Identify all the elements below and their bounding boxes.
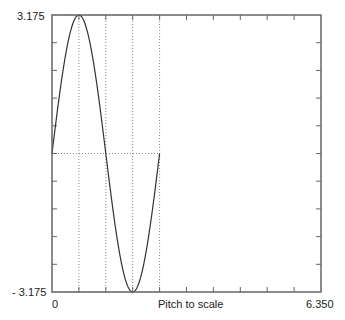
- x-min-label: 0: [52, 298, 58, 310]
- sine-curve: [52, 15, 160, 292]
- x-max-label: 6.350: [306, 298, 334, 310]
- x-axis-title: Pitch to scale: [158, 298, 223, 310]
- y-max-label: 3.175: [17, 10, 45, 22]
- y-min-label: - 3.175: [12, 286, 46, 298]
- chart-plot: [0, 0, 345, 320]
